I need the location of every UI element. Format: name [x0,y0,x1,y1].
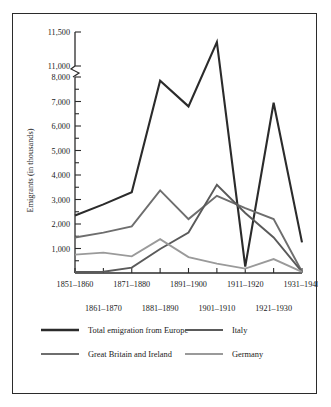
y-tick-label: 3,000 [52,196,70,205]
chart-figure-frame: 1,0002,0003,0004,0005,0006,0007,0008,000… [12,13,317,394]
x-tick-label: 1901–1910 [198,304,235,313]
x-tick-label: 1871–1880 [113,280,150,289]
emigration-line-chart: 1,0002,0003,0004,0005,0006,0007,0008,000… [13,14,318,395]
legend-label: Italy [232,326,248,335]
legend-entry: Great Britain and Ireland [41,350,173,359]
y-tick-label: 7,000 [52,98,70,107]
y-tick-label: 6,000 [52,122,70,131]
y-tick-label: 1,000 [52,245,70,254]
x-tick-label: 1861–1870 [85,304,122,313]
legend-entry: Italy [185,326,248,335]
legend-entry: Total emigration from Europe [41,326,188,335]
x-tick-label: 1911–1920 [227,280,264,289]
y-tick-label: 4,000 [52,171,70,180]
x-tick-label: 1851–1860 [57,280,94,289]
y-tick-label: 11,500 [48,28,70,37]
legend-entry: Germany [185,350,264,359]
series-line-2 [75,185,302,272]
y-tick-label: 11,000 [48,62,70,71]
legend-label: Total emigration from Europe [88,326,188,335]
y-tick-label: 5,000 [52,147,70,156]
series-line-3 [75,239,302,272]
x-tick-label: 1921–1930 [255,304,292,313]
legend-label: Germany [232,350,264,359]
x-tick-label: 1881–1890 [142,304,179,313]
y-axis-break-marker [71,66,79,77]
y-tick-label: 2,000 [52,220,70,229]
legend-label: Great Britain and Ireland [88,350,173,359]
x-tick-label: 1891–1900 [170,280,207,289]
x-tick-label: 1931–1940 [284,280,318,289]
y-tick-label: 8,000 [52,73,70,82]
y-axis-title: Emigrants (in thousands) [26,128,35,212]
